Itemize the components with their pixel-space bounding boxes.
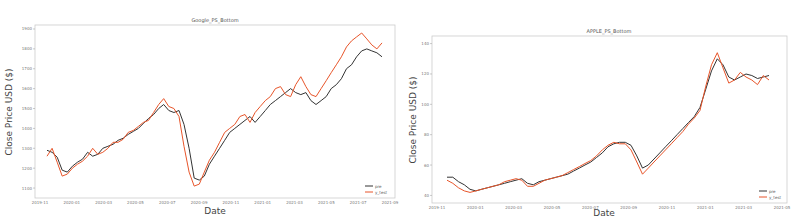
y-tick-label: 60 (424, 163, 430, 168)
x-tick-label: 2021-09 (382, 200, 399, 205)
y-tick-label: 1300 (22, 146, 33, 151)
y-tick-label: 1600 (22, 86, 33, 91)
y-tick-label: 120 (421, 71, 429, 76)
x-tick-label: 2020-09 (620, 205, 637, 210)
x-tick-label: 2020-01 (467, 205, 484, 210)
series-line-y-test (447, 53, 769, 193)
legend-label-pre: pre (375, 184, 382, 189)
x-tick-label: 2019-11 (32, 200, 49, 205)
y-tick-label: 1500 (22, 106, 33, 111)
x-axis-label: Date (204, 206, 226, 216)
y-tick-label: 1200 (22, 166, 33, 171)
x-axis-ticks: 2019-112020-012020-032020-052020-072020-… (32, 200, 399, 205)
x-tick-label: 2021-01 (254, 200, 271, 205)
x-tick-label: 2020-09 (191, 200, 208, 205)
x-tick-label: 2021-05 (774, 205, 791, 210)
y-tick-label: 40 (424, 193, 430, 198)
x-tick-label: 2020-11 (659, 205, 676, 210)
y-tick-label: 1700 (22, 66, 33, 71)
x-tick-label: 2020-03 (505, 205, 522, 210)
series-lines (47, 33, 382, 186)
series-line-pre (447, 59, 769, 191)
y-tick-label: 1100 (22, 186, 33, 191)
legend-label-y-test: y_test (375, 190, 387, 195)
plot-frame (432, 36, 787, 203)
legend: pre y_test (365, 184, 387, 195)
chart-apple: APPLE_PS_Bottom 406080100120140 2019-112… (404, 0, 808, 222)
x-tick-label: 2020-05 (544, 205, 561, 210)
y-tick-label: 1900 (22, 26, 33, 31)
series-lines (447, 53, 769, 193)
line-chart-google: Google_PS_Bottom 11001200130014001500160… (0, 0, 404, 222)
series-line-y-test (47, 33, 382, 186)
plot-frame (35, 25, 395, 198)
y-tick-label: 1400 (22, 126, 33, 131)
x-tick-label: 2021-03 (286, 200, 303, 205)
series-line-pre (47, 49, 382, 180)
y-axis-label: Close Price USD ($) (408, 76, 418, 163)
chart-title: Google_PS_Bottom (191, 17, 238, 24)
x-tick-label: 2020-05 (127, 200, 144, 205)
chart-google: Google_PS_Bottom 11001200130014001500160… (0, 0, 404, 222)
x-tick-label: 2020-11 (223, 200, 240, 205)
chart-title: APPLE_PS_Bottom (587, 28, 632, 35)
x-axis-label: Date (593, 208, 615, 218)
legend-label-y-test: y_test (769, 195, 781, 200)
y-tick-label: 80 (424, 132, 430, 137)
line-chart-apple: APPLE_PS_Bottom 406080100120140 2019-112… (404, 0, 808, 222)
x-tick-label: 2020-03 (95, 200, 112, 205)
x-tick-label: 2021-03 (735, 205, 752, 210)
x-tick-label: 2019-11 (429, 205, 446, 210)
y-axis-ticks: 406080100120140 (421, 41, 432, 198)
y-axis-ticks: 110012001300140015001600170018001900 (22, 26, 35, 190)
x-tick-label: 2021-05 (318, 200, 335, 205)
y-axis-label: Close Price USD ($) (4, 68, 14, 155)
y-tick-label: 140 (421, 41, 429, 46)
x-tick-label: 2020-07 (159, 200, 176, 205)
x-tick-label: 2020-01 (63, 200, 80, 205)
x-tick-label: 2021-01 (697, 205, 714, 210)
legend: pre y_test (759, 189, 781, 200)
legend-label-pre: pre (769, 189, 776, 194)
y-tick-label: 1800 (22, 46, 33, 51)
y-tick-label: 100 (421, 102, 429, 107)
x-tick-label: 2021-07 (350, 200, 367, 205)
